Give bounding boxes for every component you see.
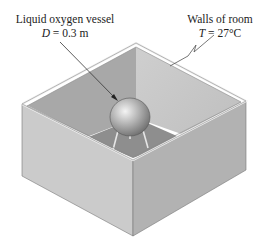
vessel-label: Liquid oxygen vessel D = 0.3 m xyxy=(0,12,130,40)
vessel-label-title: Liquid oxygen vessel xyxy=(0,12,130,26)
oxygen-vessel-sphere xyxy=(110,98,150,136)
diameter-symbol: D xyxy=(42,27,50,39)
walls-label-temperature: T = 27°C xyxy=(178,26,261,40)
walls-label: Walls of room T = 27°C xyxy=(178,12,261,40)
temperature-value: = 27°C xyxy=(205,27,241,39)
vessel-label-diameter: D = 0.3 m xyxy=(0,26,130,40)
walls-label-title: Walls of room xyxy=(178,12,261,26)
diameter-value: = 0.3 m xyxy=(50,27,88,39)
